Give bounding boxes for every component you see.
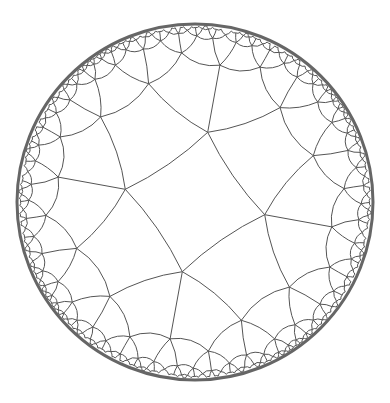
poincare-disk-diagram — [0, 0, 390, 403]
tiling-edges — [19, 26, 371, 378]
figure — [0, 0, 390, 403]
disk-boundary — [17, 24, 373, 380]
geodesic-lines — [19, 26, 371, 378]
